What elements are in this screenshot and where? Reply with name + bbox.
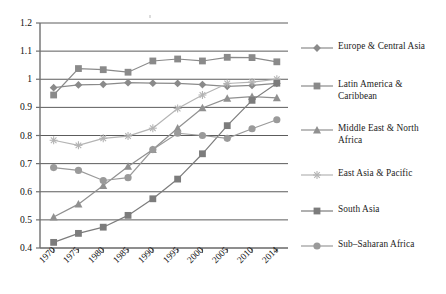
series-line: [54, 57, 277, 95]
series-middle-east-north-africa: [50, 93, 281, 221]
marker-triangle: [50, 213, 58, 221]
marker-square: [50, 92, 57, 99]
marker-circle: [199, 132, 206, 139]
marker-circle: [248, 125, 255, 132]
series-line: [54, 83, 277, 88]
marker-square: [100, 66, 107, 73]
y-axis-tick-label: 0.9: [6, 101, 32, 112]
marker-square: [314, 208, 321, 215]
marker-diamond: [124, 79, 132, 87]
legend-item[interactable]: South Asia: [300, 204, 446, 217]
marker-circle: [224, 135, 231, 142]
line-chart: 1.21.110.90.80.70.60.50.4 19701975198019…: [0, 0, 446, 294]
marker-square: [249, 54, 256, 61]
marker-square: [224, 54, 231, 61]
marker-circle: [50, 164, 57, 171]
marker-diamond: [149, 79, 157, 87]
marker-circle: [313, 242, 320, 249]
legend-item[interactable]: Sub–Saharan Africa: [300, 239, 446, 252]
circle-icon: [300, 240, 334, 252]
y-axis-tick-label: 1.1: [6, 45, 32, 56]
series-line: [54, 120, 277, 181]
y-axis-tick-label: 0.6: [6, 186, 32, 197]
square-icon: [300, 205, 334, 217]
y-axis-tick-label: 1.2: [6, 17, 32, 28]
marker-triangle: [74, 200, 82, 208]
marker-square: [273, 80, 280, 87]
diamond-icon: [300, 42, 334, 54]
marker-square: [149, 58, 156, 65]
y-axis-tick-label: 0.4: [6, 242, 32, 253]
marker-circle: [174, 130, 181, 137]
legend-item-label: Europe & Central Asia: [334, 41, 425, 53]
series-latin-america-caribbean: [50, 54, 280, 98]
marker-diamond: [174, 80, 182, 88]
triangle-icon: [300, 124, 334, 136]
marker-square: [75, 65, 82, 72]
legend-item[interactable]: Latin America & Caribbean: [300, 79, 446, 102]
marker-square: [199, 150, 206, 157]
marker-circle: [149, 146, 156, 153]
legend-item-label: East Asia & Pacific: [334, 168, 412, 180]
marker-square: [149, 195, 156, 202]
marker-circle: [273, 116, 280, 123]
marker-square: [125, 212, 132, 219]
y-axis-tick-label: 0.7: [6, 158, 32, 169]
marker-square: [224, 122, 231, 129]
marker-diamond: [75, 81, 83, 89]
series-south-asia: [50, 80, 280, 246]
marker-square: [75, 230, 82, 237]
marker-diamond: [313, 44, 321, 52]
marker-square: [174, 176, 181, 183]
legend-item-label: Sub–Saharan Africa: [334, 239, 414, 251]
marker-diamond: [50, 84, 58, 92]
marker-square: [249, 97, 256, 104]
marker-circle: [75, 167, 82, 174]
chart-legend: Europe & Central AsiaLatin America & Car…: [300, 0, 446, 294]
legend-item-label: Latin America & Caribbean: [334, 79, 403, 102]
marker-circle: [124, 174, 131, 181]
marker-square: [199, 58, 206, 65]
marker-square: [174, 56, 181, 63]
y-axis-tick-label: 0.8: [6, 130, 32, 141]
marker-square: [273, 58, 280, 65]
y-axis-tick-label: 0.5: [6, 214, 32, 225]
series-sub-saharan-africa: [50, 116, 280, 184]
legend-item-label: South Asia: [334, 204, 380, 216]
marker-square: [100, 224, 107, 231]
marker-square: [125, 69, 132, 76]
series-line: [54, 97, 277, 217]
marker-diamond: [99, 80, 107, 88]
plot-area: 1.21.110.90.80.70.60.50.4 19701975198019…: [0, 0, 300, 294]
y-axis-tick-label: 1: [6, 73, 32, 84]
marker-circle: [100, 177, 107, 184]
series-europe-central-asia: [50, 79, 281, 92]
legend-item[interactable]: East Asia & Pacific: [300, 168, 446, 181]
square-icon: [300, 80, 334, 92]
legend-item[interactable]: Middle East & North Africa: [300, 123, 446, 146]
star-icon: [300, 169, 334, 181]
marker-diamond: [199, 81, 207, 89]
legend-item-label: Middle East & North Africa: [334, 123, 419, 146]
marker-square: [314, 83, 321, 90]
legend-item[interactable]: Europe & Central Asia: [300, 41, 446, 54]
